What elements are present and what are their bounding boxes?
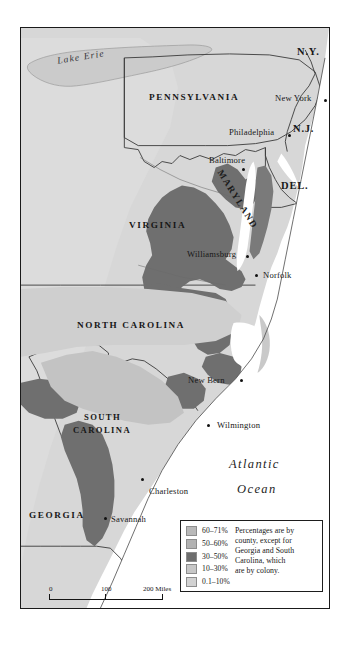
legend-label-10-30: 10–30% [202,565,228,573]
legend-swatch-50-60 [186,539,197,549]
scale-bar-line-miles [49,594,163,600]
legend-label-30-50: 30–50% [202,553,228,561]
legend-swatch-30-50 [186,552,197,562]
legend-row: 50–60% [186,538,230,550]
legend-label-60-71: 60–71% [202,527,228,535]
scale-row-miles: 0 100 200 Miles [49,585,174,604]
legend-label-0-10: 0.1–10% [202,578,230,586]
legend-row: 30–50% [186,551,230,563]
scale-tick-miles-100: 100 [101,585,112,593]
legend-swatch-0-10 [186,577,197,587]
scale-tick-miles-0: 0 [49,585,53,593]
legend-label-50-60: 50–60% [202,540,228,548]
map-root: Lake Erie PENNSYLVANIA N.Y. New York Phi… [0,0,351,649]
legend-rows: 60–71% 50–60% 30–50% 10–30% 0.1–10% [186,525,230,588]
legend-note: Percentages are by county, except for Ge… [235,525,297,588]
legend-row: 10–30% [186,563,230,575]
map-frame: Lake Erie PENNSYLVANIA N.Y. New York Phi… [20,27,330,609]
legend-row: 0.1–10% [186,576,230,588]
scale-ticks-miles: 0 100 200 Miles [49,585,174,593]
legend-swatch-10-30 [186,564,197,574]
scale-bar-miles: 0 100 200 Miles [49,585,174,604]
scale-tick-miles-200: 200 Miles [143,585,171,593]
legend-row: 60–71% [186,525,230,537]
legend: 60–71% 50–60% 30–50% 10–30% 0.1–10% [180,520,323,592]
legend-swatch-60-71 [186,526,197,536]
